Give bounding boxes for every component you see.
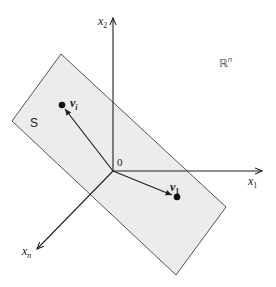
space-label-base: ℝ — [219, 57, 228, 70]
diagram-canvas: ℝn S 0 x2 x1 xn vi v1 — [0, 0, 276, 287]
x1-axis-label: x1 — [248, 175, 257, 190]
xn-label-sub: n — [27, 251, 31, 260]
space-label-sup: n — [228, 56, 232, 64]
point-vi — [59, 102, 66, 109]
x1-label-sub: 1 — [253, 181, 257, 190]
v1-label-sub: 1 — [175, 187, 179, 196]
v1-label: v1 — [170, 181, 179, 196]
diagram-svg — [0, 0, 276, 287]
subspace-label: S — [30, 117, 38, 129]
x2-label-sub: 2 — [103, 21, 107, 30]
xn-axis-label: xn — [22, 245, 31, 260]
origin-label: 0 — [117, 157, 123, 168]
xn-axis — [37, 171, 113, 249]
vi-label-sub: i — [75, 103, 77, 112]
vi-label: vi — [70, 97, 78, 112]
x2-axis-label: x2 — [98, 15, 107, 30]
space-label: ℝn — [219, 57, 232, 69]
